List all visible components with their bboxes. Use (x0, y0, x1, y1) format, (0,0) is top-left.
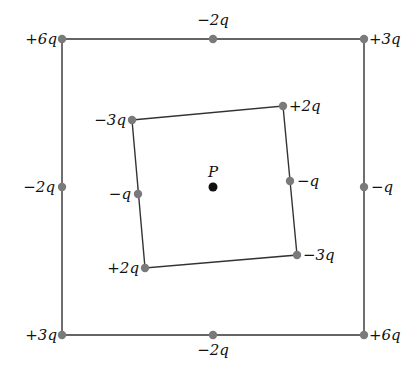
point-p-label: P (207, 163, 219, 181)
charge-diagram: +6q−2q+3q−2q−q+3q−2q+6q−3q+2q−q−3q+2q−q … (0, 0, 414, 369)
outer-top-mid-dot (209, 35, 217, 43)
inner-top-left-label: −3q (94, 111, 126, 129)
inner-left-mid-label: −q (109, 185, 131, 203)
outer-top-left-dot (58, 35, 66, 43)
inner-bottom-left-dot (141, 264, 149, 272)
outer-bottom-left-label: +3q (25, 326, 57, 344)
outer-top-left-label: +6q (25, 30, 57, 48)
inner-bottom-right-dot (293, 251, 301, 259)
inner-bottom-right-label: −3q (303, 246, 335, 264)
inner-top-left-dot (128, 116, 136, 124)
outer-right-mid-label: −q (371, 178, 393, 196)
inner-bottom-left-label: +2q (107, 259, 139, 277)
point-p-marker (209, 183, 218, 192)
outer-right-mid-dot (360, 183, 368, 191)
inner-right-mid-dot (286, 177, 294, 185)
outer-bottom-right-label: +6q (369, 326, 401, 344)
outer-top-mid-label: −2q (197, 11, 229, 29)
outer-left-mid-label: −2q (23, 178, 55, 196)
outer-left-mid-dot (58, 183, 66, 191)
outer-top-right-dot (360, 35, 368, 43)
inner-top-right-dot (279, 102, 287, 110)
inner-top-right-label: +2q (289, 97, 321, 115)
outer-top-right-label: +3q (369, 30, 401, 48)
inner-left-mid-dot (134, 190, 142, 198)
inner-right-mid-label: −q (297, 172, 319, 190)
outer-bottom-mid-dot (209, 331, 217, 339)
outer-bottom-right-dot (360, 331, 368, 339)
outer-bottom-mid-label: −2q (197, 341, 229, 359)
outer-bottom-left-dot (58, 331, 66, 339)
